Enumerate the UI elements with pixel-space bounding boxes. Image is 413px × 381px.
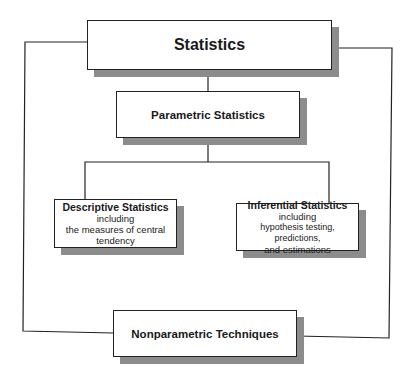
parametric-statistics-node: Parametric Statistics [116, 91, 300, 138]
descriptive-statistics-label: Descriptive Statistics [62, 201, 168, 213]
nonparametric-techniques-node: Nonparametric Techniques [113, 310, 297, 357]
statistics-label: Statistics [174, 36, 245, 54]
descriptive-statistics-node: Descriptive Statistics including the mea… [54, 199, 177, 248]
inferential-statistics-node: Inferential Statistics including hypothe… [236, 203, 359, 251]
descriptive-sub-line-2: the measures of central [66, 224, 165, 235]
nonparametric-techniques-label: Nonparametric Techniques [131, 328, 278, 340]
descriptive-sub-line-3: tendency [96, 235, 135, 246]
inferential-sub-line-1: including [279, 211, 317, 222]
inferential-sub-line-2: hypothesis testing, predictions, [237, 222, 358, 244]
statistics-node: Statistics [87, 20, 332, 70]
parametric-statistics-label: Parametric Statistics [151, 109, 265, 121]
inferential-sub-line-3: and estimations [264, 244, 331, 255]
descriptive-sub-line-1: including [97, 213, 135, 224]
inferential-statistics-label: Inferential Statistics [248, 199, 348, 211]
